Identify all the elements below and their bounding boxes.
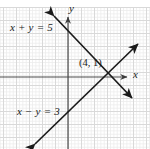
equation-label-2: x − y = 3	[17, 105, 60, 117]
equation-label-1: x + y = 5	[10, 21, 53, 33]
x-axis-label: x	[133, 68, 138, 80]
y-axis-label: y	[69, 2, 74, 14]
intersection-point-label: (4, 1)	[79, 57, 102, 68]
graph-figure: x + y = 5 x − y = 3 (4, 1) y x	[0, 0, 150, 149]
